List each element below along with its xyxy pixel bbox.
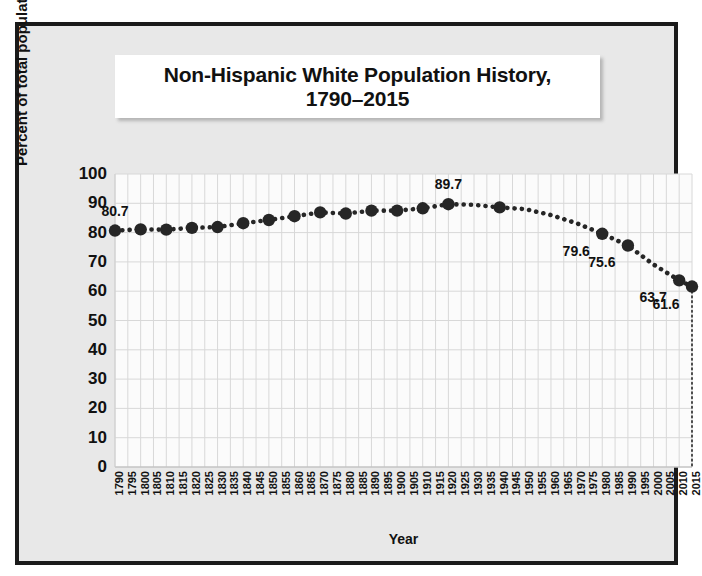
x-tick-1930: 1930 xyxy=(472,471,484,495)
x-tick-1855: 1855 xyxy=(280,471,292,495)
y-tick-20: 20 xyxy=(88,398,107,418)
x-tick-1905: 1905 xyxy=(408,471,420,495)
data-point-1890 xyxy=(365,204,377,216)
x-tick-2010: 2010 xyxy=(677,471,689,495)
x-tick-1810: 1810 xyxy=(164,471,176,495)
data-point-1790 xyxy=(109,224,121,236)
data-point-1860 xyxy=(288,210,300,222)
x-tick-1980: 1980 xyxy=(600,471,612,495)
chart-title-line-1: Non-Hispanic White Population History, xyxy=(164,63,552,86)
plot-surface: 80.789.779.675.663.761.6 xyxy=(115,174,692,467)
x-tick-1840: 1840 xyxy=(241,471,253,495)
x-tick-2005: 2005 xyxy=(664,471,676,495)
x-tick-1970: 1970 xyxy=(575,471,587,495)
y-axis-title: Percent of total population xyxy=(13,0,30,196)
x-tick-2000: 2000 xyxy=(652,471,664,495)
x-tick-1910: 1910 xyxy=(421,471,433,495)
x-tick-1915: 1915 xyxy=(434,471,446,495)
x-tick-1940: 1940 xyxy=(498,471,510,495)
x-tick-1835: 1835 xyxy=(228,471,240,495)
data-point-1980 xyxy=(596,228,608,240)
data-label-1790: 80.7 xyxy=(101,203,128,219)
x-tick-1995: 1995 xyxy=(639,471,651,495)
data-label-2015: 61.6 xyxy=(652,296,679,312)
chart-svg xyxy=(115,174,692,467)
x-tick-1945: 1945 xyxy=(510,471,522,495)
x-tick-1920: 1920 xyxy=(446,471,458,495)
x-tick-1895: 1895 xyxy=(382,471,394,495)
data-point-1800 xyxy=(134,223,146,235)
x-tick-1815: 1815 xyxy=(177,471,189,495)
x-tick-1860: 1860 xyxy=(293,471,305,495)
plot-area: 80.789.779.675.663.761.6 xyxy=(115,174,692,467)
x-tick-1825: 1825 xyxy=(203,471,215,495)
data-point-2015 xyxy=(686,280,698,292)
y-tick-80: 80 xyxy=(88,223,107,243)
y-tick-30: 30 xyxy=(88,369,107,389)
data-point-1920 xyxy=(442,198,454,210)
chart-title-line-2: 1790–2015 xyxy=(306,87,409,110)
data-label-1920: 89.7 xyxy=(435,176,462,192)
y-tick-100: 100 xyxy=(79,164,107,184)
x-tick-2015: 2015 xyxy=(690,471,702,495)
data-point-1870 xyxy=(314,206,326,218)
data-point-1840 xyxy=(237,217,249,229)
x-tick-1890: 1890 xyxy=(369,471,381,495)
data-point-1990 xyxy=(622,239,634,251)
x-tick-1950: 1950 xyxy=(523,471,535,495)
x-tick-1830: 1830 xyxy=(216,471,228,495)
x-tick-1800: 1800 xyxy=(139,471,151,495)
x-tick-1975: 1975 xyxy=(587,471,599,495)
x-tick-1795: 1795 xyxy=(126,471,138,495)
y-axis-tick-labels: 0102030405060708090100 xyxy=(43,166,107,475)
x-axis-title: Year xyxy=(115,531,692,547)
data-point-1850 xyxy=(263,214,275,226)
data-label-1990: 75.6 xyxy=(588,254,615,270)
chart-panel: Non-Hispanic White Population History, 1… xyxy=(15,22,678,565)
data-point-2010 xyxy=(673,274,685,286)
data-point-1820 xyxy=(186,222,198,234)
x-tick-1790: 1790 xyxy=(113,471,125,495)
x-tick-1925: 1925 xyxy=(459,471,471,495)
chart-title: Non-Hispanic White Population History, 1… xyxy=(164,63,552,110)
data-point-1900 xyxy=(391,204,403,216)
y-tick-60: 60 xyxy=(88,281,107,301)
x-tick-1820: 1820 xyxy=(190,471,202,495)
x-tick-1990: 1990 xyxy=(626,471,638,495)
x-tick-1875: 1875 xyxy=(331,471,343,495)
x-tick-1805: 1805 xyxy=(151,471,163,495)
x-tick-1955: 1955 xyxy=(536,471,548,495)
y-tick-70: 70 xyxy=(88,252,107,272)
x-tick-1850: 1850 xyxy=(267,471,279,495)
x-tick-1885: 1885 xyxy=(357,471,369,495)
y-tick-50: 50 xyxy=(88,311,107,331)
x-tick-1960: 1960 xyxy=(549,471,561,495)
x-tick-1935: 1935 xyxy=(485,471,497,495)
x-tick-1880: 1880 xyxy=(344,471,356,495)
x-tick-1845: 1845 xyxy=(254,471,266,495)
y-tick-0: 0 xyxy=(98,457,107,477)
x-tick-1870: 1870 xyxy=(318,471,330,495)
data-point-1830 xyxy=(211,221,223,233)
x-tick-1985: 1985 xyxy=(613,471,625,495)
x-tick-1965: 1965 xyxy=(562,471,574,495)
chart-title-box: Non-Hispanic White Population History, 1… xyxy=(115,55,600,118)
x-tick-1865: 1865 xyxy=(305,471,317,495)
y-tick-10: 10 xyxy=(88,428,107,448)
data-point-1940 xyxy=(493,201,505,213)
data-label-1980: 79.6 xyxy=(563,243,590,259)
data-point-1910 xyxy=(417,202,429,214)
data-point-1880 xyxy=(340,207,352,219)
data-point-1810 xyxy=(160,223,172,235)
y-tick-40: 40 xyxy=(88,340,107,360)
x-tick-1900: 1900 xyxy=(395,471,407,495)
x-axis-tick-labels: 1790179518001805181018151820182518301835… xyxy=(115,471,692,523)
